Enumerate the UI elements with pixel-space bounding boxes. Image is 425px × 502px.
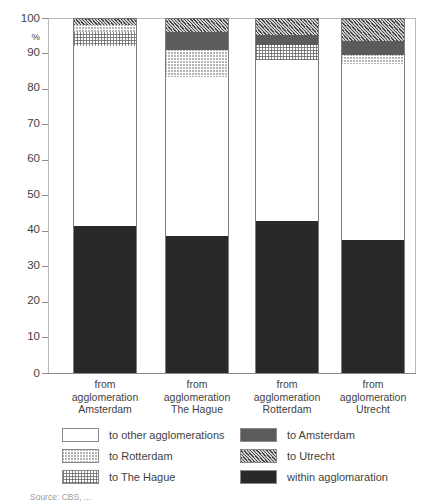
legend: to other agglomerations to Rotterdam to …	[0, 428, 425, 484]
legend-swatch-to-the-hague-icon	[62, 470, 99, 484]
y-tick-label-0: 0	[0, 368, 40, 380]
category-label-line2: agglomeration	[318, 391, 425, 404]
y-tick-label-70: 70	[0, 118, 40, 130]
bar-segment-from-agglomeration-amsterdam-within-agglomeration[interactable]	[74, 226, 136, 373]
y-tick-label-60: 60	[0, 153, 40, 165]
bar-segment-from-agglomeration-utrecht-within-agglomeration[interactable]	[342, 240, 404, 373]
legend-swatch-to-amsterdam-icon	[240, 428, 277, 442]
bar-utrecht[interactable]	[341, 18, 405, 373]
x-axis-category-labels: from agglomeration Amsterdam from agglom…	[48, 378, 416, 420]
legend-swatch-to-utrecht-icon	[240, 449, 277, 463]
category-label-line3: Utrecht	[318, 403, 425, 416]
legend-swatch-within-agglomeration-icon	[240, 470, 277, 484]
y-tick-label-10: 10	[0, 331, 40, 343]
bar-segment-from-agglomeration-utrecht-to-utrecht[interactable]	[342, 18, 404, 41]
y-tick-label-20: 20	[0, 295, 40, 307]
bar-segment-from-agglomeration-utrecht-to-other-agglomerations[interactable]	[342, 64, 404, 240]
bar-segment-from-agglomeration-the-hague-within-agglomeration[interactable]	[166, 236, 228, 373]
category-label-utrecht: from agglomeration Utrecht	[318, 378, 425, 416]
bar-segment-from-agglomeration-the-hague-to-amsterdam[interactable]	[166, 32, 228, 50]
y-tick-label-50: 50	[0, 189, 40, 201]
y-tick-label-30: 30	[0, 260, 40, 272]
x-axis-line	[48, 373, 416, 374]
y-tick-label-100: 100	[0, 13, 40, 25]
bar-segment-from-agglomeration-the-hague-to-utrecht[interactable]	[166, 18, 228, 32]
legend-label-other-agglomerations: to other agglomerations	[109, 430, 225, 441]
bar-segment-from-agglomeration-utrecht-to-rotterdam[interactable]	[342, 55, 404, 64]
plot-area	[48, 18, 416, 373]
y-tick-label-40: 40	[0, 224, 40, 236]
bar-segment-from-agglomeration-the-hague-to-other-agglomerations[interactable]	[166, 77, 228, 237]
category-label-line1: from	[318, 378, 425, 391]
bar-segment-from-agglomeration-utrecht-to-amsterdam[interactable]	[342, 41, 404, 55]
legend-label-to-the-hague: to The Hague	[109, 472, 175, 483]
legend-label-to-amsterdam: to Amsterdam	[287, 430, 355, 441]
bar-segment-from-agglomeration-rotterdam-to-other-agglomerations[interactable]	[256, 60, 318, 222]
y-tick-label-90: 90	[0, 47, 40, 59]
legend-label-to-utrecht: to Utrecht	[287, 451, 335, 462]
bar-segment-from-agglomeration-rotterdam-to-utrecht[interactable]	[256, 18, 318, 35]
y-axis-labels: 100 % 90 80 70 60 50 40 30 20 10 0	[0, 0, 40, 500]
bar-segment-from-agglomeration-rotterdam-to-amsterdam[interactable]	[256, 35, 318, 46]
bar-the-hague[interactable]	[165, 18, 229, 373]
legend-label-within-agglomeration: within agglomaration	[287, 472, 388, 483]
legend-label-to-rotterdam: to Rotterdam	[109, 451, 173, 462]
bar-segment-from-agglomeration-amsterdam-to-the-hague[interactable]	[74, 32, 136, 46]
bar-segment-from-agglomeration-the-hague-to-rotterdam[interactable]	[166, 50, 228, 77]
y-axis-unit-label: %	[0, 32, 40, 42]
y-tick-label-80: 80	[0, 82, 40, 94]
bar-segment-from-agglomeration-amsterdam-to-utrecht[interactable]	[74, 18, 136, 25]
legend-item-other-agglomerations[interactable]: to other agglomerations	[62, 428, 225, 442]
legend-item-to-amsterdam[interactable]: to Amsterdam	[240, 428, 355, 442]
bar-amsterdam[interactable]	[73, 18, 137, 373]
bar-segment-from-agglomeration-amsterdam-to-rotterdam[interactable]	[74, 25, 136, 32]
bar-segment-from-agglomeration-rotterdam-to-the-hague[interactable]	[256, 45, 318, 59]
legend-item-to-utrecht[interactable]: to Utrecht	[240, 449, 335, 463]
bar-rotterdam[interactable]	[255, 18, 319, 373]
legend-item-within-agglomeration[interactable]: within agglomaration	[240, 470, 388, 484]
legend-swatch-to-rotterdam-icon	[62, 449, 99, 463]
legend-item-to-rotterdam[interactable]: to Rotterdam	[62, 449, 173, 463]
legend-swatch-other-agglomerations-icon	[62, 428, 99, 442]
bar-segment-from-agglomeration-rotterdam-within-agglomeration[interactable]	[256, 221, 318, 373]
legend-item-to-the-hague[interactable]: to The Hague	[62, 470, 175, 484]
bar-segment-from-agglomeration-amsterdam-to-other-agglomerations[interactable]	[74, 46, 136, 226]
source-note: Source: CBS, ...	[30, 492, 91, 502]
